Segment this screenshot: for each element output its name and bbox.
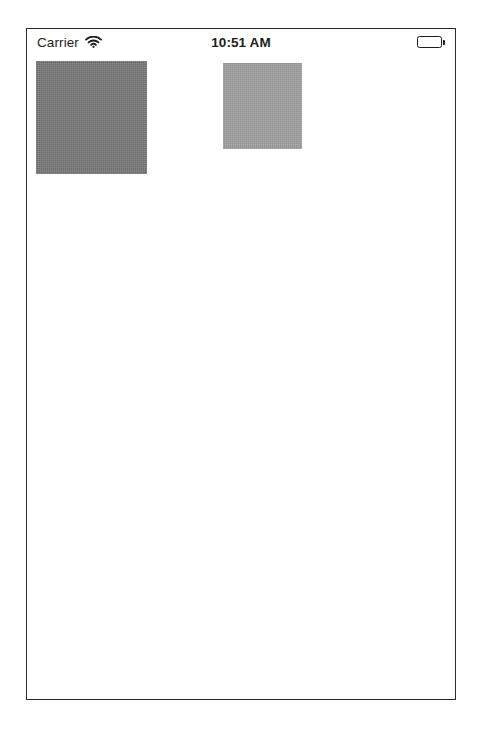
battery-cap xyxy=(443,40,445,45)
battery-full-icon xyxy=(417,36,445,48)
status-bar-right-group xyxy=(417,36,445,48)
device-frame: Carrier 10:51 AM xyxy=(26,28,456,700)
scanned-page: Carrier 10:51 AM xyxy=(0,0,479,731)
carrier-label: Carrier xyxy=(37,35,79,50)
status-bar: Carrier 10:51 AM xyxy=(27,29,455,55)
battery-body xyxy=(417,36,442,48)
primary-gray-box[interactable] xyxy=(36,61,147,174)
secondary-gray-box[interactable] xyxy=(223,63,302,149)
wifi-icon xyxy=(85,36,102,48)
app-content-area xyxy=(27,55,455,699)
status-bar-left-group: Carrier xyxy=(37,35,102,50)
